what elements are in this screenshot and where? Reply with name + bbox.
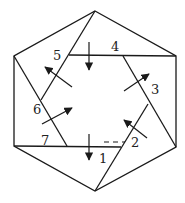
label-3: 3 bbox=[151, 82, 159, 97]
segment-right-diag-3 bbox=[123, 56, 176, 147]
label-6: 6 bbox=[33, 102, 41, 117]
segment-bottom-line-1-7 bbox=[14, 146, 121, 147]
inner-segments bbox=[14, 11, 176, 191]
outer-hexagon bbox=[14, 11, 176, 191]
label-4: 4 bbox=[111, 39, 119, 54]
label-7: 7 bbox=[41, 133, 49, 148]
label-1: 1 bbox=[99, 151, 107, 166]
label-2: 2 bbox=[131, 135, 139, 150]
label-5: 5 bbox=[53, 48, 61, 63]
segment-top-line-4 bbox=[69, 55, 176, 56]
arrow-upper-right-icon bbox=[124, 74, 149, 91]
segment-bottom-right-diag-2 bbox=[95, 104, 148, 191]
hexagon-diagram: 1234567 bbox=[0, 0, 185, 203]
